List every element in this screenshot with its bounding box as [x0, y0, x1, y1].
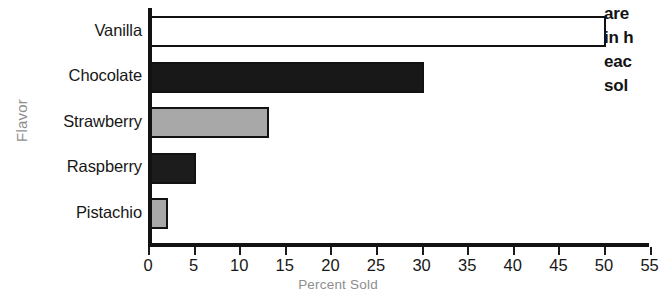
x-axis-tick [422, 247, 424, 255]
x-axis-tick [513, 247, 515, 255]
y-axis-tick-label: Raspberry [32, 157, 142, 176]
y-axis-tick-label: Strawberry [32, 112, 142, 131]
x-axis-tick-label: 20 [310, 256, 350, 275]
y-axis-tick-label: Vanilla [32, 21, 142, 40]
caption-line: in h [604, 26, 649, 50]
bar [150, 107, 269, 138]
y-axis-tick-labels: VanillaChocolateStrawberryRaspberryPista… [25, 0, 142, 250]
x-axis-title: Percent Sold [148, 277, 528, 292]
x-axis-tick-label: 40 [493, 256, 533, 275]
x-axis-tick [467, 247, 469, 255]
y-axis-tick-label: Chocolate [32, 66, 142, 85]
x-axis-tick-label: 5 [174, 256, 214, 275]
x-axis-tick-label: 10 [219, 256, 259, 275]
caption-line: are [604, 2, 649, 26]
x-axis-tick [148, 247, 150, 255]
x-axis-tick-label: 50 [584, 256, 624, 275]
caption-line: sol [604, 74, 649, 98]
x-axis-tick-label: 15 [265, 256, 305, 275]
x-axis-tick [376, 247, 378, 255]
y-axis-tick-label: Pistachio [32, 203, 142, 222]
bar [150, 198, 168, 229]
x-axis-tick [285, 247, 287, 255]
x-axis-tick-label: 25 [356, 256, 396, 275]
x-axis-tick-label: 35 [447, 256, 487, 275]
x-axis-tick [604, 247, 606, 255]
x-axis-tick-label: 0 [128, 256, 168, 275]
bar [150, 153, 196, 184]
x-axis-tick-label: 55 [630, 256, 663, 275]
chart-title: Ice Cream Flavors Sold [148, 0, 548, 3]
side-caption: arein heacsol [604, 2, 649, 98]
plot-area: 0510152025303540455055 [148, 8, 649, 243]
x-axis-tick-label: 30 [402, 256, 442, 275]
x-axis-tick [239, 247, 241, 255]
x-axis-tick [194, 247, 196, 255]
bar [150, 16, 606, 47]
bar [150, 62, 424, 93]
x-axis-line [148, 243, 649, 247]
x-axis-tick-label: 45 [538, 256, 578, 275]
x-axis-tick [650, 247, 652, 255]
x-axis-tick [558, 247, 560, 255]
x-axis-tick [330, 247, 332, 255]
caption-line: eac [604, 50, 649, 74]
